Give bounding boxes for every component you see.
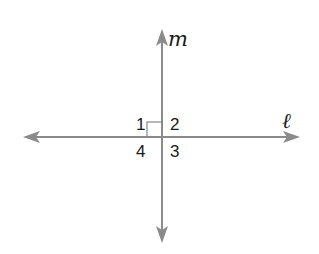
angle-1-label: 1	[136, 115, 145, 134]
perpendicular-lines-diagram: 𝑚 ℓ 1 2 3 4	[0, 0, 319, 254]
angle-4-label: 4	[136, 142, 145, 161]
line-l-label: ℓ	[282, 109, 291, 133]
right-angle-marker	[147, 122, 162, 137]
line-m-label: 𝑚	[168, 27, 188, 51]
angle-2-label: 2	[170, 115, 179, 134]
angle-3-label: 3	[170, 142, 179, 161]
